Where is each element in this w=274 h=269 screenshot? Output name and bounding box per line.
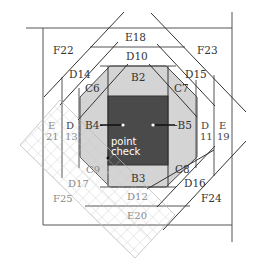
label-e21-bottom: 21 bbox=[46, 131, 59, 142]
label-d12: D12 bbox=[127, 191, 148, 202]
label-d14: D14 bbox=[69, 68, 91, 80]
point-check-line2: check bbox=[111, 146, 140, 157]
label-b3: B3 bbox=[131, 172, 145, 184]
label-e21-top: E bbox=[48, 120, 55, 131]
label-f23: F23 bbox=[197, 44, 218, 56]
label-b5: -B5 bbox=[174, 119, 192, 131]
quilt-block-diagram: E18 D10 F22 F23 D14 D15 C6 C7 B2 B4- -B5… bbox=[0, 0, 274, 269]
label-d17: D17 bbox=[68, 178, 89, 189]
b5-point bbox=[151, 123, 154, 126]
point-check-marker bbox=[107, 157, 110, 160]
label-f25: F25 bbox=[53, 193, 73, 204]
label-d11-top: D bbox=[201, 120, 209, 131]
b4-point bbox=[121, 123, 124, 126]
label-e20: E20 bbox=[127, 210, 147, 221]
label-f22: F22 bbox=[53, 44, 74, 56]
label-d15: D15 bbox=[185, 68, 207, 80]
label-d10: D10 bbox=[126, 50, 148, 62]
label-d11-bottom: 11 bbox=[200, 131, 213, 142]
label-c6: C6 bbox=[85, 82, 100, 94]
label-d13-bottom: 13 bbox=[65, 131, 78, 142]
label-c7: C7 bbox=[174, 82, 189, 94]
label-e18: E18 bbox=[125, 31, 146, 43]
label-e19-top: E bbox=[219, 120, 226, 131]
label-e19-bottom: 19 bbox=[217, 131, 230, 142]
label-b2: B2 bbox=[131, 71, 145, 83]
label-c8: C8 bbox=[175, 163, 190, 175]
label-d16: D16 bbox=[184, 177, 206, 189]
label-f24: F24 bbox=[201, 192, 222, 204]
label-d13-top: D bbox=[66, 120, 74, 131]
label-c9: C9 bbox=[86, 164, 100, 175]
